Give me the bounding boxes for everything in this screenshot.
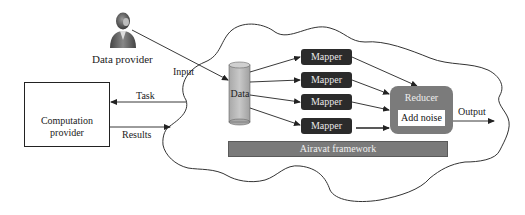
diagram-canvas: Data provider Input Task Results Output … [0,0,525,215]
task-label: Task [136,90,155,101]
reducer-label: Reducer [390,92,453,103]
computation-provider-label-line1: Computation [25,115,109,127]
data-store-label: Data [227,88,253,99]
data-provider-label: Data provider [92,53,153,65]
reducer-node: Reducer Add noise [390,86,453,134]
framework-bar: Airavat framework [228,141,448,157]
mapper-node: Mapper [301,72,352,88]
output-label: Output [458,106,486,117]
computation-provider-label-line2: provider [25,127,109,139]
mapper-node: Mapper [301,118,352,134]
computation-provider-box: Computation provider [24,82,110,147]
results-label: Results [122,129,151,140]
mapper-node: Mapper [301,94,352,110]
input-label: Input [173,66,194,77]
add-noise-box: Add noise [398,110,445,126]
mapper-node: Mapper [301,49,352,65]
computation-provider-label: Computation provider [25,115,109,139]
